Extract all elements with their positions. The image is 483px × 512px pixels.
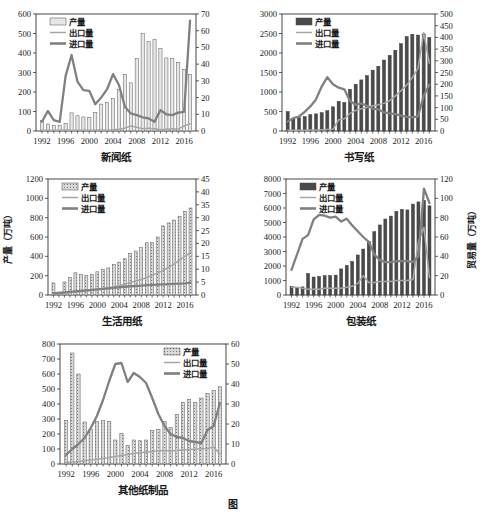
- bar: [135, 58, 138, 131]
- y2-tick-label: 60: [440, 232, 449, 242]
- bar: [159, 49, 162, 131]
- bar: [382, 60, 385, 131]
- y2-tick-label: 15: [201, 251, 210, 261]
- bar: [171, 59, 174, 131]
- y-tick-label: 1500: [260, 68, 277, 78]
- y-tick-label: 800: [30, 213, 43, 223]
- y2-tick-label: 60: [231, 339, 240, 349]
- bar: [177, 62, 180, 131]
- bar: [181, 403, 184, 465]
- x-tick-label: 2016: [415, 300, 433, 310]
- chart-title: 其他纸制品: [118, 484, 168, 496]
- bar: [157, 430, 160, 465]
- y-tick-label: 0: [273, 126, 277, 136]
- figure-caption: 图: [228, 494, 238, 512]
- y2-tick-label: 120: [440, 174, 453, 184]
- x-tick-label: 1996: [57, 136, 75, 146]
- y2-tick-label: 500: [440, 9, 453, 19]
- y-axis-label: 产量（万吨）: [2, 210, 13, 264]
- y-tick-label: 0: [39, 290, 43, 300]
- y2-tick-label: 25: [201, 226, 210, 236]
- legend-label: 进口量: [315, 39, 340, 49]
- bar: [312, 277, 315, 295]
- legend-swatch-production: [300, 183, 316, 190]
- bar: [296, 287, 299, 295]
- x-tick-label: 2016: [205, 469, 223, 479]
- bar: [200, 398, 203, 464]
- bar: [117, 89, 120, 131]
- chart-title: 包装纸: [346, 315, 377, 327]
- legend-label: 进口量: [69, 39, 94, 49]
- y-tick-label: 1200: [26, 174, 43, 184]
- y-tick-label: 3000: [264, 247, 281, 257]
- bar: [309, 115, 312, 131]
- bar: [373, 232, 376, 295]
- legend-label: 产量: [315, 17, 332, 27]
- bar: [343, 103, 346, 131]
- bar: [140, 248, 143, 295]
- legend-label: 出口量: [315, 28, 340, 38]
- legend-label: 产量: [183, 347, 200, 357]
- bar: [307, 274, 310, 295]
- bar: [354, 84, 357, 131]
- y2-tick-label: 40: [231, 379, 240, 389]
- y-tick-label: 400: [42, 399, 55, 409]
- x-tick-label: 2016: [176, 300, 194, 310]
- y-tick-label: 600: [18, 9, 31, 19]
- bar: [318, 276, 321, 295]
- legend-label: 进口量: [183, 369, 208, 379]
- y2-tick-label: 50: [231, 359, 240, 369]
- bar: [292, 119, 295, 131]
- bar: [90, 275, 93, 295]
- y2-tick-label: 300: [440, 56, 453, 66]
- y2-tick-label: 250: [440, 68, 453, 78]
- x-tick-label: 2000: [89, 300, 106, 310]
- bar: [151, 242, 154, 295]
- y2-tick-label: 20: [201, 93, 210, 103]
- legend-label: 进口量: [81, 204, 106, 214]
- y2-axis-label: 贸易量（万吨）: [466, 206, 477, 269]
- x-tick-label: 1992: [33, 136, 50, 146]
- x-tick-label: 2012: [152, 136, 169, 146]
- y2-tick-label: 350: [440, 44, 453, 54]
- legend-swatch-production: [164, 348, 180, 355]
- y2-tick-label: 150: [440, 91, 453, 101]
- bar: [400, 209, 403, 295]
- y2-tick-label: 100: [440, 103, 453, 113]
- y-tick-label: 5000: [264, 218, 281, 228]
- x-tick-label: 2004: [111, 300, 129, 310]
- bar: [165, 58, 168, 131]
- y2-tick-label: 70: [201, 9, 210, 19]
- y2-tick-label: 40: [201, 59, 210, 69]
- y2-tick-label: 10: [201, 109, 210, 119]
- y2-tick-label: 20: [231, 419, 240, 429]
- bar: [303, 117, 306, 131]
- bar: [187, 400, 190, 465]
- bar: [406, 210, 409, 295]
- x-tick-label: 1996: [82, 469, 100, 479]
- legend-label: 出口量: [69, 28, 94, 38]
- y2-tick-label: 30: [231, 399, 240, 409]
- bar: [88, 118, 91, 131]
- y-tick-label: 2000: [264, 261, 281, 271]
- y2-tick-label: 60: [201, 26, 210, 36]
- legend-swatch-production: [62, 183, 78, 190]
- x-tick-label: 2004: [347, 136, 365, 146]
- y2-tick-label: 0: [201, 126, 205, 136]
- bar: [132, 440, 135, 464]
- legend-label: 产量: [81, 182, 98, 192]
- y2-tick-label: 5: [201, 277, 205, 287]
- y2-tick-label: 30: [201, 76, 210, 86]
- legend: 产量出口量进口量: [296, 17, 340, 49]
- x-tick-label: 2000: [324, 136, 341, 146]
- bar: [106, 103, 109, 131]
- bar: [151, 430, 154, 464]
- x-tick-label: 1992: [279, 136, 296, 146]
- bar: [76, 116, 79, 131]
- legend: 产量出口量进口量: [300, 182, 344, 214]
- bar: [112, 265, 115, 295]
- bar: [360, 80, 363, 131]
- x-tick-label: 2008: [371, 300, 388, 310]
- bar: [351, 261, 354, 295]
- bar: [365, 76, 368, 131]
